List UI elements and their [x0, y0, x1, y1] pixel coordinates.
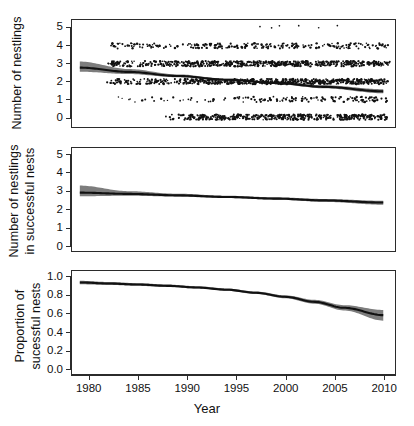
panel-3-plot-area: [71, 270, 396, 375]
y-axis-tick-label: 0.0: [47, 364, 63, 376]
panel-1-y-axis: 012345: [37, 19, 71, 128]
panel-2-y-axis-title-line1: Number of nestlings: [7, 141, 21, 261]
x-axis-tick-label: 1980: [76, 382, 102, 394]
x-axis-tick-mark: [236, 375, 237, 380]
y-axis-tick-label: 1: [57, 222, 63, 234]
x-axis-spine: [71, 375, 396, 376]
y-axis-tick-label: 2: [57, 75, 63, 87]
panel-2-y-axis-title-line2: in successful nests: [23, 141, 37, 261]
panel-2-plot-svg: [72, 148, 395, 251]
x-axis-tick-mark: [138, 375, 139, 380]
confidence-band: [80, 62, 383, 94]
y-axis-tick-label: 2: [57, 203, 63, 215]
confidence-band: [80, 186, 383, 205]
x-axis-tick-label: 1995: [224, 382, 250, 394]
confidence-band: [80, 281, 383, 321]
y-axis-tick-label: 0: [57, 240, 63, 252]
y-axis-tick-label: 3: [57, 57, 63, 69]
x-axis-title: Year: [0, 401, 414, 416]
panel-3-y-axis: 0.00.20.40.60.81.0: [37, 270, 71, 375]
y-axis-tick-label: 5: [57, 21, 63, 33]
x-axis-tick-label: 1990: [174, 382, 200, 394]
panel-2-plot-area: [71, 147, 396, 252]
fitted-trend-line: [80, 193, 383, 203]
y-axis-tick-label: 1.0: [47, 270, 63, 282]
panel-1-plot-area: [71, 19, 396, 128]
y-axis-tick-label: 4: [57, 39, 63, 51]
x-axis-tick-label: 2010: [371, 382, 397, 394]
y-axis-tick-label: 0.2: [47, 345, 63, 357]
x-axis-tick-mark: [89, 375, 90, 380]
y-axis-tick-label: 3: [57, 185, 63, 197]
y-axis-tick-label: 5: [57, 148, 63, 160]
panel-3-y-axis-title-line1: Proportion of: [13, 271, 27, 381]
y-axis-tick-label: 0.4: [47, 326, 63, 338]
figure-root: Number of nestlings 012345 Number of nes…: [0, 0, 414, 426]
panel-1-y-axis-title: Number of nestlings: [10, 13, 24, 133]
y-axis-tick-label: 0: [57, 112, 63, 124]
x-axis-tick-mark: [187, 375, 188, 380]
panel-1-plot-svg: [72, 20, 395, 127]
x-axis-tick-label: 2005: [322, 382, 348, 394]
y-axis-tick-label: 0.6: [47, 308, 63, 320]
y-axis-tick-label: 0.8: [47, 289, 63, 301]
y-axis-tick-label: 1: [57, 94, 63, 106]
panel-2-y-axis: 012345: [37, 147, 71, 252]
x-axis-tick-mark: [286, 375, 287, 380]
x-axis-tick-mark: [335, 375, 336, 380]
x-axis-tick-label: 2000: [273, 382, 299, 394]
x-axis-tick-label: 1985: [125, 382, 151, 394]
panel-3-plot-svg: [72, 271, 395, 374]
y-axis-tick-label: 4: [57, 167, 63, 179]
fitted-trend-line: [80, 282, 383, 315]
x-axis: 1980198519901995200020052010 Year: [0, 375, 414, 421]
x-axis-tick-mark: [384, 375, 385, 380]
